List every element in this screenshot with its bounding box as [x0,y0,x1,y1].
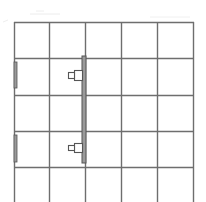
wall-device [69,71,83,81]
left-wall-bar [14,135,17,162]
faint-marks [3,11,190,22]
wall-device [69,144,83,153]
device-body [75,144,83,153]
floor-plan-diagram [0,0,206,202]
device-tip [69,73,75,79]
left-wall-bar [14,62,17,88]
wall-devices [69,71,83,153]
device-body [75,71,83,81]
grid [14,22,194,202]
device-tip [69,146,75,151]
